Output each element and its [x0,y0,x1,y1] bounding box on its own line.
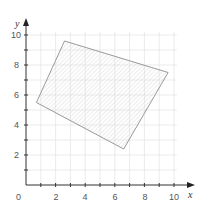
x-tick-label: 2 [53,192,58,202]
origin-label: 0 [16,192,21,202]
y-tick-labels: 2 4 6 8 10 [11,30,21,160]
x-tick-labels: 2 4 6 8 10 [53,192,179,202]
x-tick-label: 8 [142,192,147,202]
y-tick-label: 8 [14,60,19,70]
y-tick-label: 6 [14,90,19,100]
y-axis-arrow-icon [23,18,29,26]
x-axis-arrow-icon [187,182,195,188]
x-tick-label: 4 [82,192,87,202]
x-tick-label: 10 [169,192,179,202]
shaded-quadrilateral [36,41,168,149]
y-tick-label: 10 [11,30,21,40]
x-axis-label: x [187,189,193,200]
y-tick-label: 2 [14,150,19,160]
y-axis-label: y [14,18,20,29]
coordinate-plane: y x 0 2 4 6 8 10 2 4 6 8 10 [0,0,205,208]
x-tick-label: 6 [112,192,117,202]
y-tick-label: 4 [14,120,19,130]
